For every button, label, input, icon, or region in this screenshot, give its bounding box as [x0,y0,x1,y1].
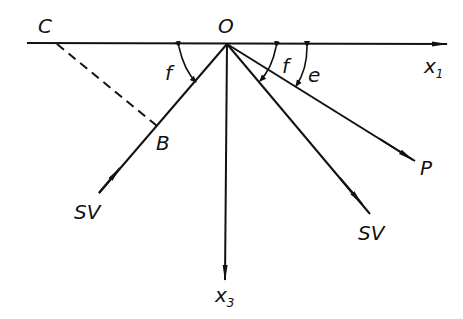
x1-axis [27,43,447,44]
reflected-sv-angle-label: f [282,54,292,78]
wave-reflection-diagram: O C B f f e x1 x3 SV SV P [0,0,463,319]
reflected-p-angle-label: e [308,63,320,87]
point-c-label: C [38,14,52,38]
origin-label: O [218,14,234,38]
incident-angle-arc [179,47,196,82]
reflected-sv-angle-arc [260,47,276,81]
reflected-p-label: P [420,156,433,180]
reflected-sv-arrowhead [340,178,362,204]
reflected-sv-label: SV [358,221,386,245]
incident-sv-label: SV [74,200,102,224]
wavefront-cb [57,44,157,126]
reflected-p-angle-arc [296,47,307,86]
x3-axis-label: x3 [214,283,234,310]
incident-angle-label: f [165,61,175,85]
reflected-p-arrowhead [380,139,413,160]
incident-sv-arrowhead [99,168,120,193]
x1-axis-label: x1 [423,54,443,81]
x3-axis [225,44,227,280]
point-b-label: B [156,131,170,155]
